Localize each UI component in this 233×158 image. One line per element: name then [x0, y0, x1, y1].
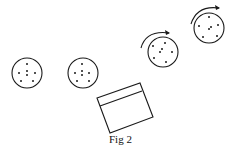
disc-dot: [32, 80, 34, 82]
disc-3: [148, 37, 178, 67]
arrowhead-icon: [165, 30, 170, 35]
disc-dot: [153, 57, 155, 59]
disc-dot: [20, 80, 22, 82]
disc-dot: [88, 72, 90, 74]
arrow-arc: [141, 33, 169, 48]
disc-dot: [165, 61, 167, 63]
arrowhead-icon: [215, 5, 220, 10]
disc-dot: [208, 28, 210, 30]
disc-dot: [81, 70, 83, 72]
disc-dot: [26, 70, 28, 72]
disc-dot: [210, 26, 212, 28]
tray-group: [97, 83, 153, 133]
disc-1: [12, 58, 42, 88]
disc-dot: [171, 51, 173, 53]
figure-caption: Fig 2: [109, 133, 132, 145]
tray-outline: [97, 83, 153, 133]
disc-dot: [216, 35, 218, 37]
disc-dot: [76, 80, 78, 82]
disc-dot: [26, 63, 28, 65]
disc-outline: [148, 37, 178, 67]
disc-dot: [26, 74, 28, 76]
disc-dot: [18, 72, 20, 74]
disc-2: [68, 58, 98, 88]
disc-dot: [202, 36, 204, 38]
disc-dot: [74, 72, 76, 74]
disc-dot: [81, 63, 83, 65]
disc-dot: [34, 72, 36, 74]
discs-group: [12, 13, 224, 88]
disc-dot: [161, 48, 163, 50]
disc-dot: [159, 51, 161, 53]
disc-dot: [217, 24, 219, 26]
disc-dot: [164, 42, 166, 44]
disc-dot: [198, 25, 200, 27]
disc-dot: [88, 80, 90, 82]
disc-outline: [12, 58, 42, 88]
disc-4: [194, 13, 224, 43]
disc-dot: [81, 74, 83, 76]
disc-dot: [208, 16, 210, 18]
disc-dot: [152, 45, 154, 47]
disc-outline: [68, 58, 98, 88]
